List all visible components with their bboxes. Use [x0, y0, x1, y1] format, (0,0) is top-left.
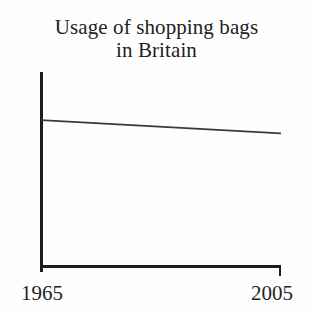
- data-series-svg: [0, 0, 313, 318]
- plot-area: 1965 2005: [0, 0, 313, 318]
- chart-figure: Usage of shopping bags in Britain 1965 2…: [0, 0, 313, 318]
- x-tick-label-2005: 2005: [251, 283, 293, 304]
- data-line-shopping-bags: [41, 120, 281, 133]
- x-tick-label-1965: 1965: [21, 283, 63, 304]
